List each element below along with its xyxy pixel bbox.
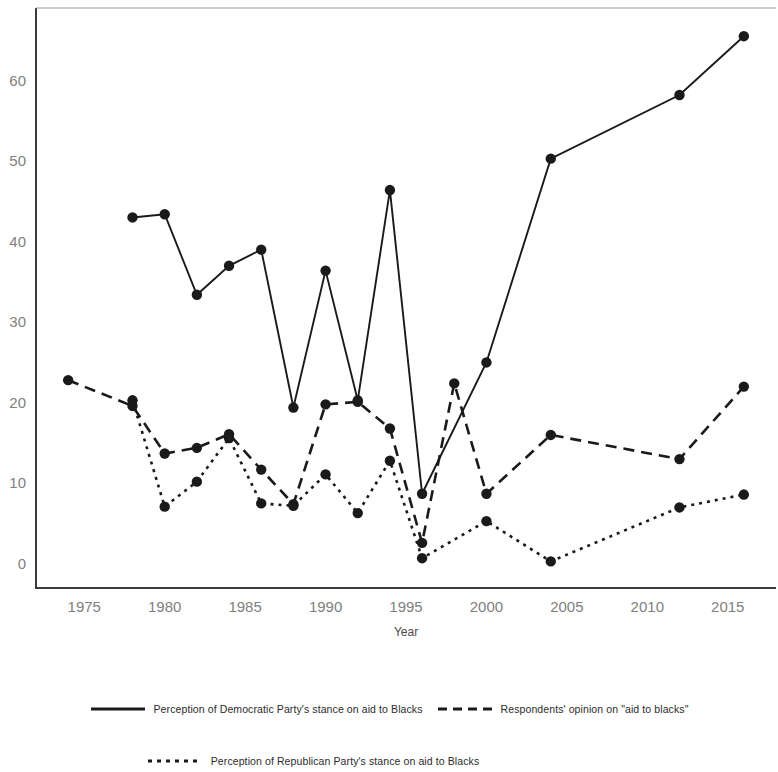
data-point-marker	[385, 456, 395, 466]
legend-swatch-dotted	[147, 756, 203, 766]
data-point-marker	[160, 501, 170, 511]
data-point-marker	[127, 212, 137, 222]
chart-legend: Perception of Democratic Party's stance …	[0, 686, 778, 772]
data-point-marker	[481, 516, 491, 526]
chart-figure: 0102030405060197519801985199019952000200…	[0, 0, 778, 772]
y-tick-label: 60	[9, 72, 26, 89]
x-tick-label: 1985	[228, 598, 261, 615]
series-line	[68, 380, 744, 543]
legend-label-respondents: Respondents' opinion on "aid to blacks"	[501, 703, 689, 715]
data-point-marker	[546, 153, 556, 163]
data-point-marker	[739, 31, 749, 41]
data-point-marker	[63, 375, 73, 385]
x-tick-label: 2000	[470, 598, 503, 615]
data-point-marker	[192, 443, 202, 453]
data-point-marker	[385, 185, 395, 195]
legend-label-republican: Perception of Republican Party's stance …	[211, 755, 480, 767]
x-tick-label: 1995	[389, 598, 422, 615]
data-point-marker	[320, 265, 330, 275]
x-tick-label: 2015	[711, 598, 744, 615]
data-point-marker	[224, 261, 234, 271]
x-tick-label: 1975	[68, 598, 101, 615]
y-tick-label: 40	[9, 233, 26, 250]
data-point-marker	[481, 489, 491, 499]
data-point-marker	[449, 378, 459, 388]
y-tick-label: 20	[9, 394, 26, 411]
data-point-marker	[674, 90, 684, 100]
plot-frame	[36, 8, 776, 588]
y-tick-label: 0	[18, 555, 26, 572]
data-point-marker	[417, 538, 427, 548]
plot-area: 0102030405060197519801985199019952000200…	[0, 0, 778, 660]
x-tick-label: 2005	[550, 598, 583, 615]
data-point-marker	[256, 244, 266, 254]
data-point-marker	[288, 501, 298, 511]
x-tick-label: 1980	[148, 598, 181, 615]
data-point-marker	[417, 489, 427, 499]
data-point-marker	[127, 395, 137, 405]
legend-swatch-dashed	[437, 704, 493, 714]
chart-series	[127, 31, 749, 499]
legend-swatch-solid	[90, 704, 146, 714]
data-point-marker	[353, 508, 363, 518]
data-point-marker	[481, 357, 491, 367]
data-point-marker	[385, 423, 395, 433]
data-point-marker	[160, 209, 170, 219]
y-tick-label: 50	[9, 152, 26, 169]
data-point-marker	[192, 476, 202, 486]
data-point-marker	[739, 381, 749, 391]
chart-series	[63, 375, 749, 548]
data-point-marker	[674, 454, 684, 464]
legend-label-democratic: Perception of Democratic Party's stance …	[154, 703, 423, 715]
x-tick-label: 1990	[309, 598, 342, 615]
data-point-marker	[417, 553, 427, 563]
data-point-marker	[674, 502, 684, 512]
x-axis-title: Year	[394, 625, 418, 639]
legend-entry-respondents: Respondents' opinion on "aid to blacks"	[437, 703, 689, 715]
data-point-marker	[288, 402, 298, 412]
data-point-marker	[224, 433, 234, 443]
data-point-marker	[320, 399, 330, 409]
y-tick-label: 30	[9, 313, 26, 330]
data-point-marker	[353, 397, 363, 407]
series-line	[133, 400, 744, 561]
legend-entry-democratic: Perception of Democratic Party's stance …	[90, 703, 423, 715]
legend-entry-republican: Perception of Republican Party's stance …	[147, 755, 480, 767]
data-point-marker	[256, 498, 266, 508]
data-point-marker	[546, 556, 556, 566]
data-point-marker	[320, 469, 330, 479]
data-point-marker	[739, 489, 749, 499]
line-chart-svg: 0102030405060197519801985199019952000200…	[0, 0, 778, 660]
y-tick-label: 10	[9, 474, 26, 491]
data-point-marker	[546, 430, 556, 440]
data-point-marker	[256, 464, 266, 474]
chart-series	[127, 395, 749, 567]
x-tick-label: 2010	[631, 598, 664, 615]
data-point-marker	[192, 290, 202, 300]
data-point-marker	[160, 448, 170, 458]
